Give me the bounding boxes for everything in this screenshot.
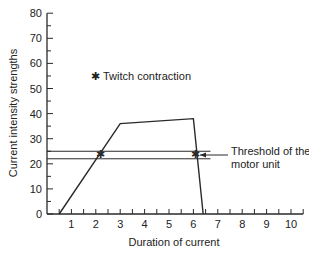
current-pulse-line xyxy=(59,119,203,214)
y-tick-label: 30 xyxy=(30,133,42,145)
x-tick-label: 1 xyxy=(68,218,74,230)
x-tick-label: 5 xyxy=(166,218,172,230)
threshold-lines xyxy=(47,151,210,159)
x-tick-label: 8 xyxy=(239,218,245,230)
y-axis-title: Current intensity strengths xyxy=(7,48,19,177)
y-tick-label: 50 xyxy=(30,83,42,95)
twitch-markers: ✱✱ xyxy=(96,148,200,160)
x-tick-label: 9 xyxy=(264,218,270,230)
y-tick-label: 10 xyxy=(30,183,42,195)
x-tick-label: 6 xyxy=(190,218,196,230)
x-tick-label: 10 xyxy=(285,218,297,230)
legend-label: Twitch contraction xyxy=(103,70,191,82)
y-tick-label: 80 xyxy=(30,7,42,19)
x-axis: 12345678910 xyxy=(47,209,303,230)
chart: 01020304050607080 12345678910 ✱✱ Current… xyxy=(0,0,309,255)
arrowhead-icon xyxy=(200,153,206,158)
legend: ✱ Twitch contraction xyxy=(91,70,191,82)
y-tick-label: 20 xyxy=(30,158,42,170)
twitch-star-icon: ✱ xyxy=(96,148,105,160)
y-axis: 01020304050607080 xyxy=(30,7,53,220)
threshold-label-line1: Threshold of the xyxy=(231,145,309,157)
x-axis-title: Duration of current xyxy=(128,236,219,248)
y-tick-label: 0 xyxy=(36,208,42,220)
threshold-label-line2: motor unit xyxy=(231,158,280,170)
x-tick-label: 4 xyxy=(142,218,148,230)
x-tick-label: 7 xyxy=(215,218,221,230)
threshold-annotation: Threshold of the motor unit xyxy=(200,145,309,170)
x-tick-label: 3 xyxy=(117,218,123,230)
data-series xyxy=(59,119,203,214)
y-tick-label: 40 xyxy=(30,108,42,120)
y-tick-label: 60 xyxy=(30,57,42,69)
y-tick-label: 70 xyxy=(30,32,42,44)
x-tick-label: 2 xyxy=(93,218,99,230)
legend-star-icon: ✱ xyxy=(91,70,100,82)
twitch-star-icon: ✱ xyxy=(191,148,200,160)
